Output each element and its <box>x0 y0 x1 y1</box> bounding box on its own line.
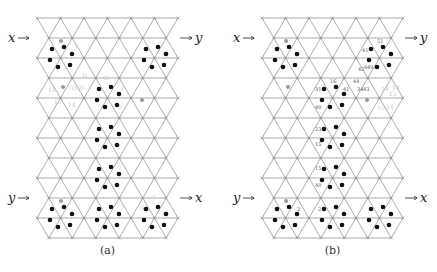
input-label-y: y <box>7 190 16 205</box>
output-label-y: y <box>194 30 203 45</box>
faint-label: 7Π Π <box>68 84 84 91</box>
faint-label: 7 <box>118 164 122 171</box>
index-label: 40 <box>367 64 373 70</box>
panel-b: 1414151514514142440164431413443402315154… <box>232 17 428 258</box>
faint-label: 14 <box>68 101 76 108</box>
index-label: 40 <box>315 182 321 188</box>
output-label-x: x <box>420 190 428 205</box>
index-label: 31 <box>315 86 321 92</box>
faint-label: 15 <box>389 90 397 97</box>
gray-dot <box>59 199 63 203</box>
gray-dot <box>61 85 65 89</box>
gray-dot <box>365 98 369 102</box>
faint-label: 7 <box>120 86 124 93</box>
index-label: 43 <box>363 86 369 92</box>
index-label: 51 <box>377 38 383 44</box>
gray-dot <box>59 39 63 43</box>
input-label-y: y <box>232 190 241 205</box>
panel-a: 7Π7Π Π111014Π777777Π7xyyx(a) <box>7 17 203 258</box>
faint-label: 14 <box>386 103 394 110</box>
faint-label: 11 <box>48 86 56 93</box>
index-label: 44 <box>353 78 359 84</box>
output-label-x: x <box>195 190 203 205</box>
faint-label: Π <box>104 74 109 81</box>
index-label: 15 <box>315 165 321 171</box>
diagram-figure: 7Π7Π Π111014Π777777Π7xyyx(a) 14141515145… <box>0 0 437 272</box>
faint-label: 7 <box>152 194 156 201</box>
index-label: 16 <box>330 78 336 84</box>
index-label: 40 <box>315 104 321 110</box>
index-label: 41 <box>362 47 368 53</box>
faint-label: 14 <box>381 85 389 92</box>
index-label: 23 <box>315 126 321 132</box>
panel-caption: (a) <box>100 244 115 257</box>
faint-label: 10 <box>54 98 62 105</box>
gray-dot <box>284 199 288 203</box>
index-label: 2 <box>297 206 300 212</box>
faint-label: Π <box>82 72 87 79</box>
gray-dot <box>284 39 288 43</box>
panel-caption: (b) <box>325 244 341 257</box>
gray-dot <box>140 98 144 102</box>
index-label: 41 <box>343 86 349 92</box>
faint-label: 7 <box>120 204 124 211</box>
index-label: 2 <box>318 206 321 212</box>
gray-dot <box>286 85 290 89</box>
faint-label: 7 <box>74 44 78 51</box>
index-label: 15 <box>315 141 321 147</box>
input-label-x: x <box>233 30 241 45</box>
output-label-y: y <box>419 30 428 45</box>
input-label-x: x <box>8 30 16 45</box>
faint-label: 15 <box>377 104 385 111</box>
